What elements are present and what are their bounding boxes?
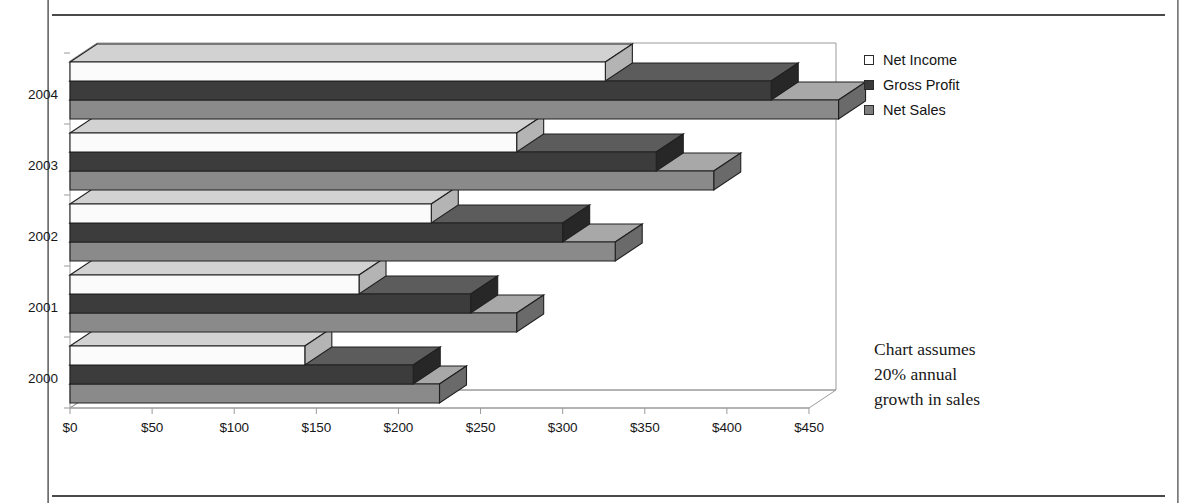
legend-swatch-icon bbox=[864, 80, 874, 90]
annotation-line-1: Chart assumes bbox=[874, 337, 1114, 362]
bar bbox=[70, 186, 458, 223]
bar-group bbox=[70, 115, 741, 190]
x-axis-tick-label: $150 bbox=[286, 420, 346, 435]
y-axis-tick-label: 2003 bbox=[0, 158, 58, 173]
legend-item-label: Gross Profit bbox=[883, 77, 960, 93]
legend-item-label: Net Income bbox=[883, 52, 957, 68]
bar-front-face bbox=[70, 313, 517, 332]
legend-item-label: Net Sales bbox=[883, 102, 946, 118]
bar-group bbox=[70, 328, 466, 403]
bar-group bbox=[70, 44, 866, 119]
x-axis-tick-label: $350 bbox=[615, 420, 675, 435]
bar-front-face bbox=[70, 62, 605, 81]
bar-top-face bbox=[70, 44, 632, 62]
x-axis-tick-label: $50 bbox=[122, 420, 182, 435]
chart-legend: Net IncomeGross ProfitNet Sales bbox=[864, 48, 960, 123]
bar-series-group bbox=[70, 44, 866, 403]
y-axis-tick-label: 2002 bbox=[0, 229, 58, 244]
bar-group bbox=[70, 257, 544, 332]
x-axis-tick-label: $300 bbox=[533, 420, 593, 435]
x-axis-tick-label: $0 bbox=[40, 420, 100, 435]
x-axis bbox=[70, 408, 809, 414]
x-axis-tick-label: $200 bbox=[368, 420, 428, 435]
bar-front-face bbox=[70, 171, 714, 190]
bar-front-face bbox=[70, 242, 615, 261]
x-axis-tick-label: $450 bbox=[779, 420, 839, 435]
bar-front-face bbox=[70, 152, 656, 171]
bar-front-face bbox=[70, 81, 771, 100]
bar-group bbox=[70, 186, 642, 261]
bar bbox=[70, 328, 332, 365]
legend-item[interactable]: Gross Profit bbox=[864, 73, 960, 96]
bar-front-face bbox=[70, 275, 359, 294]
bar bbox=[70, 115, 544, 152]
bar-front-face bbox=[70, 223, 563, 242]
x-axis-tick-label: $100 bbox=[204, 420, 264, 435]
bar bbox=[70, 44, 632, 81]
bar-front-face bbox=[70, 384, 439, 403]
y-axis-tick-label: 2001 bbox=[0, 300, 58, 315]
y-axis-tick-label: 2000 bbox=[0, 371, 58, 386]
bar-front-face bbox=[70, 100, 839, 119]
y-axis-ticks bbox=[64, 53, 70, 408]
bar-front-face bbox=[70, 133, 517, 152]
bar-front-face bbox=[70, 365, 413, 384]
legend-swatch-icon bbox=[864, 55, 874, 65]
legend-swatch-icon bbox=[864, 105, 874, 115]
chart-annotation: Chart assumes 20% annual growth in sales bbox=[874, 337, 1114, 412]
bar-front-face bbox=[70, 346, 305, 365]
annotation-line-3: growth in sales bbox=[874, 387, 1114, 412]
bar-chart: $0$50$100$150$200$250$300$350$400$450 20… bbox=[0, 0, 1191, 503]
bar-front-face bbox=[70, 204, 431, 223]
x-axis-tick-label: $400 bbox=[697, 420, 757, 435]
annotation-line-2: 20% annual bbox=[874, 362, 1114, 387]
legend-item[interactable]: Net Income bbox=[864, 48, 960, 71]
legend-item[interactable]: Net Sales bbox=[864, 98, 960, 121]
x-axis-tick-label: $250 bbox=[451, 420, 511, 435]
bar-front-face bbox=[70, 294, 471, 313]
y-axis-tick-label: 2004 bbox=[0, 87, 58, 102]
bar bbox=[70, 257, 386, 294]
